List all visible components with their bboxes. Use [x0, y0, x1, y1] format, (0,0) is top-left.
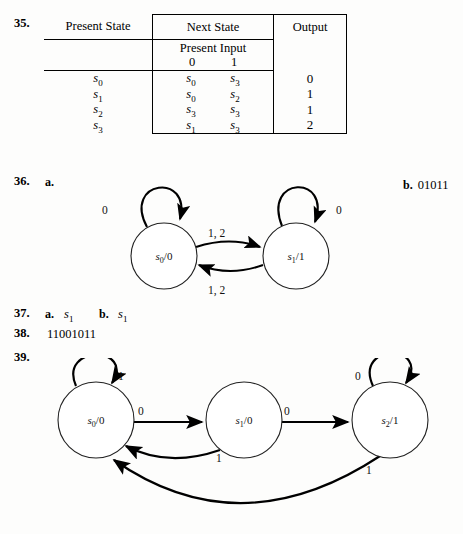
header-input-1: 1 — [231, 55, 237, 69]
edge-s1-to-s0 — [126, 446, 220, 458]
table-body-row: s0 s1 s2 s3 s0 s3 s0 s2 — [44, 71, 347, 134]
problem-38-answer: 11001011 — [47, 327, 96, 342]
problem-35-number: 35. — [14, 16, 30, 31]
edge-label-s2-to-s0: 1 — [366, 464, 372, 476]
edge-label-s0-self: 0 — [102, 204, 108, 216]
cell-output: 1 — [274, 102, 346, 118]
body-output-cells: 0 1 1 2 — [274, 71, 347, 134]
cell-state: s3 — [93, 118, 102, 132]
table-row: s1 — [44, 87, 152, 103]
edge-label-s0-self: 1 — [118, 370, 124, 382]
problem-39-state-diagram: 1 0 0 0 1 1 s0/0 s1/0 — [28, 358, 458, 534]
cell-next-0: s0 — [186, 71, 195, 87]
problem-36: 36. a. b.01011 0 0 1, 2 1, 2 — [14, 174, 463, 304]
cell-output: 2 — [274, 117, 346, 133]
problem-36-number: 36. — [14, 174, 30, 189]
edge-label-s1-to-s0: 1, 2 — [208, 284, 226, 297]
header-output: Output — [274, 15, 347, 40]
problem-37-part-b-label: b. — [99, 307, 109, 322]
body-present-state-cells: s0 s1 s2 s3 — [44, 71, 153, 134]
edge-s1-to-s0 — [199, 265, 263, 271]
header-next-state: Next State — [153, 15, 274, 40]
edge-label-s1-to-s0: 1 — [216, 452, 222, 464]
cell-next-1: s3 — [230, 71, 239, 87]
problem-35-table-wrap: Present State Next State Output Present … — [44, 14, 347, 134]
problem-37-number: 37. — [14, 306, 30, 321]
problem-37-part-a-answer: s1 — [64, 307, 73, 324]
cell-next-0: s3 — [186, 102, 195, 118]
table-row: s3 — [44, 118, 152, 134]
header-present-state-spacer — [44, 40, 153, 71]
edge-label-s1-to-s2: 0 — [284, 405, 290, 417]
table-row: s1 s3 — [153, 118, 273, 134]
header-present-input-group: Present Input 0 1 — [153, 40, 274, 71]
cell-next-1: s3 — [230, 118, 239, 134]
table-header-row-1: Present State Next State Output — [44, 15, 347, 40]
edge-s2-to-s0 — [114, 456, 380, 503]
cell-state: s0 — [93, 71, 102, 85]
state-transition-table: Present State Next State Output Present … — [44, 14, 347, 134]
cell-next-0: s0 — [186, 87, 195, 103]
problem-37-part-a-label: a. — [45, 307, 54, 322]
edge-s0-self-loop — [142, 187, 182, 227]
cell-next-1: s2 — [230, 87, 239, 103]
problem-36-state-diagram: 0 0 1, 2 1, 2 s0/0 s1/1 — [44, 174, 424, 304]
header-present-state: Present State — [44, 15, 153, 40]
edge-label-s2-self: 0 — [355, 370, 361, 382]
header-input-0: 0 — [189, 55, 195, 69]
cell-output: 1 — [274, 86, 346, 102]
edge-s0-to-s1 — [196, 242, 260, 248]
cell-output: 0 — [274, 71, 346, 87]
header-present-input: Present Input — [153, 41, 273, 55]
problem-37-part-b-answer: s1 — [118, 307, 127, 324]
table-row: s0 s2 — [153, 87, 273, 103]
table-row: s2 — [44, 102, 152, 118]
cell-state: s1 — [93, 87, 102, 101]
edge-label-s0-to-s1: 1, 2 — [208, 227, 226, 240]
cell-next-1: s3 — [230, 102, 239, 118]
edge-label-s1-self: 0 — [336, 204, 342, 216]
cell-state: s2 — [93, 102, 102, 116]
cell-next-0: s1 — [186, 118, 195, 134]
table-header-row-2: Present Input 0 1 — [44, 40, 347, 71]
body-next-state-cells: s0 s3 s0 s2 s3 s3 s1 s3 — [153, 71, 274, 134]
header-output-spacer — [274, 40, 347, 71]
page-canvas: 35. Present State Next State Output Pres… — [0, 0, 463, 534]
table-row: s0 — [44, 71, 152, 87]
problem-39: 39. 1 0 0 0 1 1 — [14, 350, 463, 534]
edge-label-s0-to-s1: 0 — [138, 405, 144, 417]
problem-38-number: 38. — [14, 326, 30, 341]
edge-s1-self-loop — [278, 187, 317, 226]
table-row: s3 s3 — [153, 102, 273, 118]
header-input-bits: 0 1 — [153, 55, 273, 69]
table-row: s0 s3 — [153, 71, 273, 87]
